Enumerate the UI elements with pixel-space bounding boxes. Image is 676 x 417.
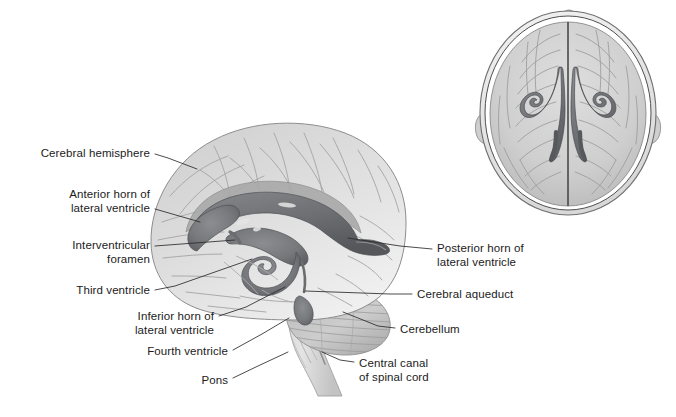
label-line: lateral ventricle <box>437 256 561 270</box>
label-line: lateral ventricle <box>100 324 214 338</box>
label-line: Inferior horn of <box>100 310 214 324</box>
label-fourth-ventricle: Fourth ventricle <box>122 345 228 359</box>
label-interventricular-foramen: Interventricularforamen <box>26 239 150 266</box>
label-line: Cerebral aqueduct <box>417 288 539 302</box>
label-line: Fourth ventricle <box>122 345 228 359</box>
label-line: Posterior horn of <box>437 242 561 256</box>
label-line: lateral ventricle <box>26 202 150 216</box>
label-line: foramen <box>26 253 150 267</box>
leader-line-pons <box>233 352 288 378</box>
superior-head-view <box>475 10 660 215</box>
anatomy-figure: Cerebral hemisphereAnterior horn oflater… <box>0 0 676 417</box>
label-line: Cerebral hemisphere <box>28 147 150 161</box>
label-cerebellum: Cerebellum <box>400 323 480 337</box>
label-pons: Pons <box>182 374 228 388</box>
label-line: Interventricular <box>26 239 150 253</box>
label-line: Third ventricle <box>52 284 150 298</box>
label-line: of spinal cord <box>359 371 459 385</box>
label-inferior-horn-of-lateral-ventricle: Inferior horn oflateral ventricle <box>100 310 214 337</box>
label-cerebral-aqueduct: Cerebral aqueduct <box>417 288 539 302</box>
label-central-canal-of-spinal-cord: Central canalof spinal cord <box>359 357 459 384</box>
leader-line-fourth-ventricle <box>233 318 289 350</box>
label-anterior-horn-of-lateral-ventricle: Anterior horn oflateral ventricle <box>26 188 150 215</box>
label-line: Pons <box>182 374 228 388</box>
label-line: Anterior horn of <box>26 188 150 202</box>
label-line: Central canal <box>359 357 459 371</box>
label-posterior-horn-of-lateral-ventricle: Posterior horn oflateral ventricle <box>437 242 561 269</box>
label-cerebral-hemisphere: Cerebral hemisphere <box>28 147 150 161</box>
label-third-ventricle: Third ventricle <box>52 284 150 298</box>
label-line: Cerebellum <box>400 323 480 337</box>
